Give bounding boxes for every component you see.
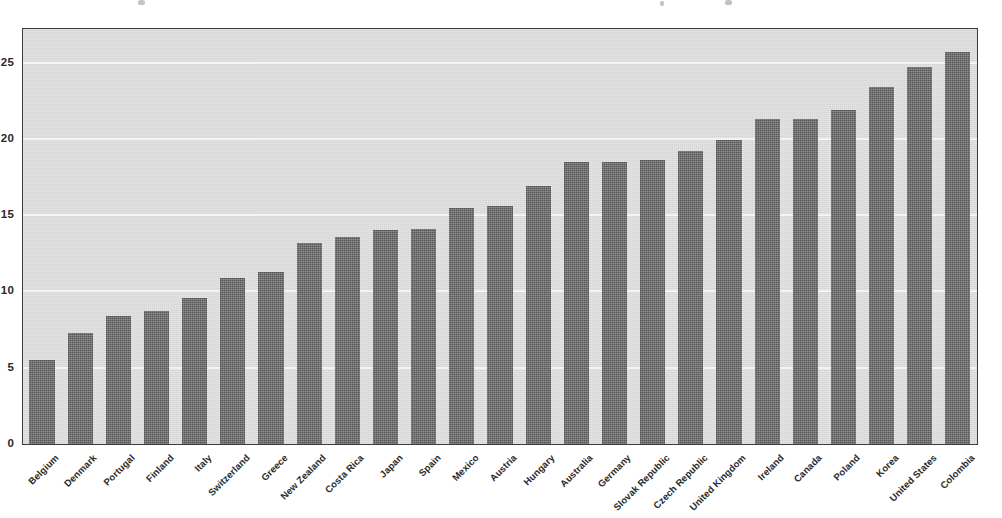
x-tick-label: Canada — [792, 452, 824, 484]
bar — [411, 229, 436, 444]
bar — [564, 162, 589, 444]
bar — [487, 206, 512, 444]
y-tick-label: 5 — [7, 361, 14, 373]
bar — [68, 333, 93, 444]
x-tick-label: Colombia — [938, 452, 977, 491]
bar-chart-figure: 0510152025 BelgiumDenmarkPortugalFinland… — [0, 0, 1002, 518]
x-tick-label: Denmark — [62, 452, 99, 489]
scan-artifact-marks — [120, 0, 880, 8]
bar — [182, 298, 207, 444]
bar — [526, 186, 551, 444]
bar — [907, 67, 932, 444]
x-tick-label: Ireland — [756, 452, 786, 482]
bar — [297, 243, 322, 444]
plot-area — [22, 28, 978, 445]
x-tick-label: Finland — [143, 452, 175, 484]
y-tick-label: 25 — [1, 56, 14, 68]
x-tick-label: Spain — [416, 452, 442, 478]
y-tick-label: 15 — [1, 208, 14, 220]
x-tick-label: Germany — [596, 452, 633, 489]
bar — [869, 87, 894, 444]
x-tick-label: Mexico — [450, 452, 481, 483]
x-tick-label: Japan — [377, 452, 405, 480]
y-tick-label: 0 — [7, 437, 14, 449]
bar — [373, 230, 398, 444]
y-tick-label: 10 — [1, 284, 14, 296]
bar — [258, 272, 283, 444]
bar — [106, 316, 131, 444]
bar — [831, 110, 856, 444]
x-tick-label: Costa Rica — [323, 452, 366, 495]
bar — [678, 151, 703, 444]
x-tick-label: Australia — [558, 452, 595, 489]
x-tick-label: Portugal — [102, 452, 138, 488]
bar — [602, 162, 627, 444]
x-tick-label: Austria — [487, 452, 518, 483]
bar — [449, 208, 474, 444]
x-axis-tick-labels: BelgiumDenmarkPortugalFinlandItalySwitze… — [22, 450, 978, 518]
x-tick-label: Poland — [832, 452, 863, 483]
x-tick-label: Greece — [259, 452, 290, 483]
x-tick-label: Belgium — [26, 452, 61, 487]
bar — [716, 140, 741, 444]
bar — [793, 119, 818, 444]
x-tick-label: Italy — [192, 452, 214, 474]
bar — [945, 52, 970, 444]
bar — [144, 311, 169, 444]
bar — [755, 119, 780, 444]
bar — [29, 360, 54, 444]
y-tick-label: 20 — [1, 132, 14, 144]
bar — [640, 160, 665, 444]
x-tick-label: Hungary — [521, 452, 557, 488]
gridline — [23, 62, 977, 64]
bar — [335, 237, 360, 445]
x-tick-label: Korea — [873, 452, 900, 479]
bar — [220, 278, 245, 444]
